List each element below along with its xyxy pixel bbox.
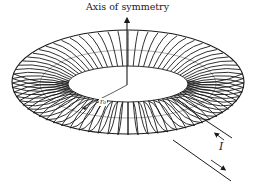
toroid-diagram — [0, 0, 254, 193]
axis-of-symmetry-label: Axis of symmetry — [86, 1, 169, 12]
radius-label: r₀ — [99, 98, 107, 106]
toroidal-coil-windings — [12, 31, 244, 135]
current-label: I — [219, 140, 223, 153]
